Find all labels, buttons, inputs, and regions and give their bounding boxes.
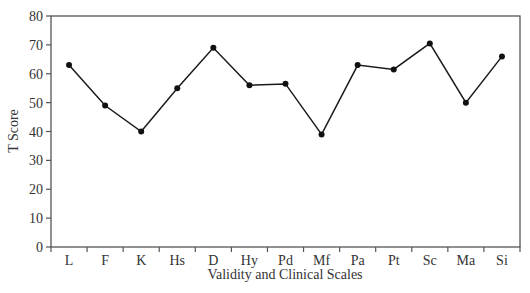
data-point-marker xyxy=(427,40,433,46)
series-line xyxy=(69,43,502,134)
x-tick-label: Sc xyxy=(423,253,437,268)
x-tick-label: L xyxy=(65,253,74,268)
data-point-marker xyxy=(283,81,289,87)
data-point-marker xyxy=(138,129,144,135)
x-tick-label: Si xyxy=(496,253,508,268)
x-tick-label: Pt xyxy=(388,253,400,268)
y-tick-label: 70 xyxy=(29,38,43,53)
y-tick-label: 30 xyxy=(29,153,43,168)
y-axis-title: T Score xyxy=(6,109,21,153)
data-point-marker xyxy=(391,66,397,72)
x-tick-label: Hy xyxy=(241,253,258,268)
data-point-marker xyxy=(246,82,252,88)
y-tick-label: 20 xyxy=(29,182,43,197)
y-tick-label: 80 xyxy=(29,9,43,24)
x-tick-label: Ma xyxy=(457,253,476,268)
y-axis: 01020304050607080 xyxy=(29,9,51,255)
plot-border xyxy=(51,16,520,247)
data-point-marker xyxy=(66,62,72,68)
plot-frame xyxy=(51,16,520,247)
x-axis: LFKHsDHyPdMfPaPtScMaSi xyxy=(51,247,520,268)
x-tick-label: Pa xyxy=(351,253,366,268)
x-tick-label: Hs xyxy=(169,253,185,268)
x-tick-label: Mf xyxy=(313,253,330,268)
data-point-marker xyxy=(319,131,325,137)
data-point-marker xyxy=(355,62,361,68)
data-point-marker xyxy=(102,103,108,109)
t-score-profile-chart: 01020304050607080 LFKHsDHyPdMfPaPtScMaSi… xyxy=(0,0,530,293)
y-tick-label: 50 xyxy=(29,96,43,111)
y-tick-label: 40 xyxy=(29,125,43,140)
x-tick-label: K xyxy=(136,253,146,268)
y-tick-label: 60 xyxy=(29,67,43,82)
data-point-marker xyxy=(210,45,216,51)
data-point-marker xyxy=(174,85,180,91)
y-tick-label: 0 xyxy=(36,240,43,255)
x-tick-label: F xyxy=(101,253,109,268)
y-tick-label: 10 xyxy=(29,211,43,226)
x-axis-title: Validity and Clinical Scales xyxy=(207,267,362,282)
x-tick-label: Pd xyxy=(278,253,293,268)
data-series xyxy=(66,40,505,137)
data-point-marker xyxy=(463,100,469,106)
data-point-marker xyxy=(499,53,505,59)
x-tick-label: D xyxy=(208,253,218,268)
line-chart: 01020304050607080 LFKHsDHyPdMfPaPtScMaSi… xyxy=(0,0,530,293)
